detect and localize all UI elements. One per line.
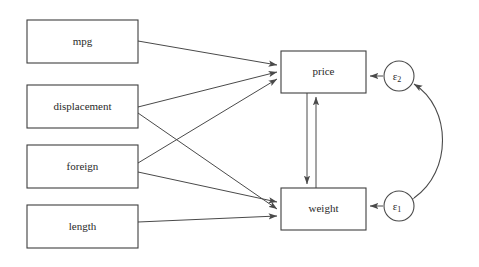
edge-e1-e2-covariance [414,84,443,198]
node-foreign-label: foreign [67,160,99,172]
edge-displacement-to-weight [138,113,277,209]
diagram-svg: mpg displacement foreign length price [0,0,479,267]
node-displacement-label: displacement [53,100,111,112]
exogenous-node-group: mpg displacement foreign length [27,20,138,248]
edge-foreign-to-price [138,79,277,163]
node-weight[interactable]: weight [281,188,366,230]
node-foreign[interactable]: foreign [27,145,138,188]
epsilon-1-subscript: 1 [397,205,401,214]
node-price-label: price [313,65,335,77]
edge-mpg-to-price [138,41,277,65]
error-node-group: ε2 ε1 [384,61,414,221]
endogenous-node-group: price weight [281,51,366,230]
node-length[interactable]: length [27,205,138,248]
epsilon-2-subscript: 2 [397,75,401,84]
node-displacement[interactable]: displacement [27,85,138,128]
node-mpg[interactable]: mpg [27,20,138,63]
edge-length-to-weight [138,216,277,222]
node-weight-label: weight [309,202,339,214]
node-epsilon-1[interactable]: ε1 [384,191,414,221]
node-length-label: length [69,220,97,232]
path-diagram-canvas: mpg displacement foreign length price [0,0,479,267]
edge-foreign-to-weight [138,172,277,202]
node-mpg-label: mpg [73,35,93,47]
node-epsilon-2[interactable]: ε2 [384,61,414,91]
edge-displacement-to-price [138,72,277,107]
node-price[interactable]: price [281,51,366,93]
